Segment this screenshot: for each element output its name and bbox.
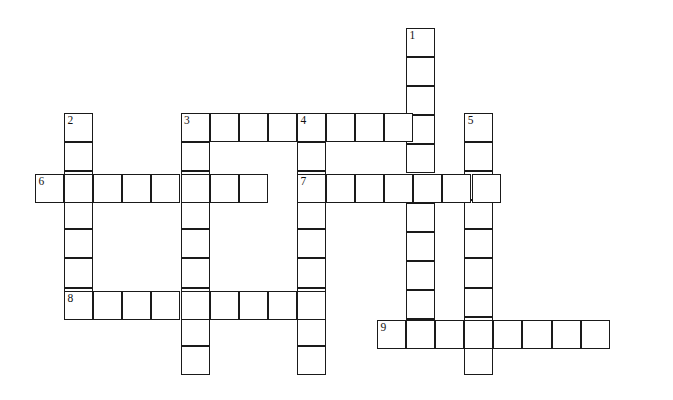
crossword-cell[interactable] <box>181 346 210 375</box>
crossword-cell[interactable] <box>406 261 435 290</box>
crossword-cell[interactable] <box>406 320 435 349</box>
crossword-cell[interactable] <box>413 174 442 203</box>
crossword-cell[interactable] <box>355 113 384 142</box>
crossword-cell[interactable] <box>406 232 435 261</box>
crossword-cell[interactable] <box>464 258 493 287</box>
crossword-cell[interactable] <box>181 142 210 171</box>
crossword-cell[interactable] <box>581 320 610 349</box>
crossword-cell[interactable] <box>297 229 326 258</box>
crossword-cell-numbered-9[interactable]: 9 <box>377 320 406 349</box>
crossword-cell-numbered-2[interactable]: 2 <box>64 113 93 142</box>
crossword-cell[interactable] <box>239 174 268 203</box>
clue-number-7: 7 <box>300 175 306 188</box>
crossword-cell[interactable] <box>355 174 384 203</box>
crossword-cell-numbered-8[interactable]: 8 <box>64 291 93 320</box>
clue-number-9: 9 <box>380 321 386 334</box>
clue-number-4: 4 <box>300 114 306 127</box>
crossword-cell[interactable] <box>122 174 151 203</box>
crossword-cell[interactable] <box>93 174 122 203</box>
crossword-cell[interactable] <box>464 288 493 317</box>
crossword-cell[interactable] <box>210 291 239 320</box>
crossword-cell[interactable] <box>297 200 326 229</box>
crossword-cell[interactable] <box>181 258 210 287</box>
crossword-cell[interactable] <box>297 258 326 287</box>
clue-number-8: 8 <box>68 292 74 305</box>
crossword-cell[interactable] <box>297 291 326 320</box>
clue-number-2: 2 <box>68 114 74 127</box>
crossword-cell[interactable] <box>239 291 268 320</box>
crossword-cell[interactable] <box>464 346 493 375</box>
crossword-cell[interactable] <box>406 290 435 319</box>
crossword-cell[interactable] <box>326 174 355 203</box>
crossword-cell[interactable] <box>151 174 180 203</box>
clue-number-1: 1 <box>410 29 416 42</box>
clue-number-5: 5 <box>468 114 474 127</box>
crossword-cell[interactable] <box>268 291 297 320</box>
crossword-grid[interactable]: 123456789 <box>0 0 673 400</box>
crossword-cell[interactable] <box>93 291 122 320</box>
crossword-cell[interactable] <box>435 320 464 349</box>
crossword-cell[interactable] <box>64 229 93 258</box>
crossword-cell[interactable] <box>406 57 435 86</box>
crossword-cell-numbered-3[interactable]: 3 <box>181 113 210 142</box>
crossword-cell[interactable] <box>522 320 551 349</box>
crossword-cell-numbered-7[interactable]: 7 <box>297 174 326 203</box>
crossword-cell-numbered-1[interactable]: 1 <box>406 28 435 57</box>
crossword-cell-numbered-6[interactable]: 6 <box>35 174 64 203</box>
crossword-cell[interactable] <box>384 174 413 203</box>
crossword-cell[interactable] <box>297 317 326 346</box>
crossword-cell[interactable] <box>297 346 326 375</box>
crossword-cell[interactable] <box>406 203 435 232</box>
crossword-cell[interactable] <box>64 200 93 229</box>
crossword-cell[interactable] <box>406 86 435 115</box>
crossword-cell[interactable] <box>493 320 522 349</box>
crossword-cell[interactable] <box>464 320 493 349</box>
crossword-cell[interactable] <box>64 258 93 287</box>
crossword-cell[interactable] <box>384 113 413 142</box>
crossword-cell[interactable] <box>464 229 493 258</box>
crossword-cell[interactable] <box>181 291 210 320</box>
crossword-cell[interactable] <box>326 113 355 142</box>
crossword-cell[interactable] <box>210 174 239 203</box>
crossword-cell[interactable] <box>181 200 210 229</box>
crossword-cell-numbered-5[interactable]: 5 <box>464 113 493 142</box>
crossword-cell[interactable] <box>151 291 180 320</box>
crossword-cell[interactable] <box>210 113 239 142</box>
crossword-cell[interactable] <box>268 113 297 142</box>
crossword-cell[interactable] <box>64 142 93 171</box>
crossword-cell[interactable] <box>464 142 493 171</box>
crossword-cell-numbered-4[interactable]: 4 <box>297 113 326 142</box>
crossword-cell[interactable] <box>239 113 268 142</box>
crossword-cell[interactable] <box>181 174 210 203</box>
crossword-cell[interactable] <box>552 320 581 349</box>
crossword-cell[interactable] <box>406 144 435 173</box>
clue-number-6: 6 <box>39 175 45 188</box>
crossword-cell[interactable] <box>122 291 151 320</box>
clue-number-3: 3 <box>184 114 190 127</box>
crossword-cell[interactable] <box>297 142 326 171</box>
crossword-cell[interactable] <box>472 174 501 203</box>
crossword-cell[interactable] <box>442 174 471 203</box>
crossword-cell[interactable] <box>464 200 493 229</box>
crossword-cell[interactable] <box>181 229 210 258</box>
crossword-cell[interactable] <box>181 317 210 346</box>
crossword-cell[interactable] <box>64 174 93 203</box>
